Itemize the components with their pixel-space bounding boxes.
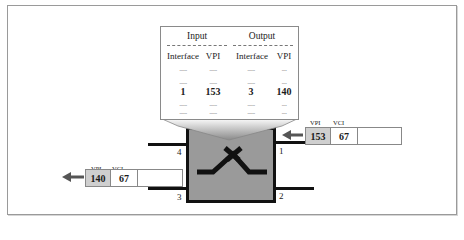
input-divider [167, 45, 227, 46]
input-header: Input [169, 31, 225, 41]
filler-cell: .... [273, 101, 295, 108]
output-header: Output [233, 31, 291, 41]
output-divider [233, 45, 293, 46]
filler-cell: ...... [171, 66, 195, 73]
outgoing-atm-cell: 140 67 [85, 169, 183, 187]
filler-cell: .... [273, 66, 295, 73]
entry-input-vpi: 153 [201, 86, 225, 97]
col-output-vpi: VPI [273, 51, 295, 61]
incoming-vci-label: VCI [333, 119, 344, 126]
filler-cell: ...... [201, 109, 225, 116]
entry-input-interface: 1 [171, 86, 195, 97]
port-4-label: 4 [177, 147, 182, 157]
port-3-label: 3 [177, 192, 182, 202]
filler-cell: ...... [239, 66, 263, 73]
incoming-vpi-label: VPI [310, 119, 320, 126]
port-3-line [148, 187, 188, 190]
outgoing-payload [138, 170, 182, 186]
incoming-atm-cell: 153 67 [305, 127, 402, 145]
filler-cell: ...... [201, 66, 225, 73]
filler-cell: ...... [201, 79, 225, 86]
filler-cell: ...... [171, 101, 195, 108]
vp-switching-table: Input Output Interface VPI Interface VPI… [160, 26, 299, 120]
filler-cell: ...... [239, 109, 263, 116]
incoming-vci-value: 67 [331, 128, 358, 144]
filler-cell: ...... [171, 109, 195, 116]
port-2-label: 2 [279, 191, 284, 201]
filler-cell: ...... [239, 79, 263, 86]
filler-cell: ...... [171, 79, 195, 86]
port-2-line [274, 187, 314, 190]
filler-cell: ...... [201, 101, 225, 108]
outgoing-vci-value: 67 [111, 170, 138, 186]
col-output-interface: Interface [231, 51, 273, 61]
col-input-interface: Interface [162, 51, 204, 61]
filler-cell: .... [273, 79, 295, 86]
incoming-payload [358, 128, 401, 144]
entry-output-interface: 3 [239, 86, 263, 97]
entry-output-vpi: 140 [273, 86, 295, 97]
col-input-vpi: VPI [202, 51, 224, 61]
filler-cell: ...... [239, 101, 263, 108]
callout-pointer [160, 118, 299, 144]
outgoing-arrow-icon [62, 171, 84, 183]
port-1-label: 1 [279, 146, 284, 156]
outgoing-vpi-value: 140 [86, 170, 111, 186]
filler-cell: .... [273, 109, 295, 116]
incoming-vpi-value: 153 [306, 128, 331, 144]
